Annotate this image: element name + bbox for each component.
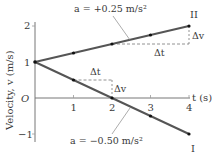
x-tick-label-2: 2 [109, 102, 115, 113]
line-II-accel-label: a = +0.25 m/s² [74, 3, 147, 14]
line-I-point-t4 [187, 132, 190, 135]
line-I-point-t3 [149, 114, 152, 117]
line-II-dt-label: Δt [154, 47, 165, 58]
line-II-point-t1 [72, 51, 75, 54]
x-tick-label-3: 3 [148, 102, 154, 113]
x-tick-label-4: 4 [186, 102, 192, 113]
line-I-name: I [191, 143, 195, 154]
line-II-point-t4 [187, 24, 190, 27]
line-II-point-t0 [33, 60, 37, 64]
x-tick-label-1: 1 [71, 102, 77, 113]
line-II-point-t2 [110, 42, 113, 45]
line-I-accel-label: a = −0.50 m/s² [70, 135, 143, 146]
line-I-dv-label: Δv [114, 83, 127, 94]
y-tick-label-origin: O [21, 93, 29, 104]
y-tick-label-2: 2 [24, 20, 30, 31]
y-axis-label: Velocity, v (m/s) [4, 50, 15, 131]
y-tick-label-neg1: −1 [18, 129, 33, 140]
line-I-point-t2 [110, 96, 113, 99]
line-II-leader [113, 16, 130, 40]
line-II-point-t3 [149, 33, 152, 36]
velocity-time-chart: 2 1 O −1 1 2 3 4 t (s) Velocity, v (m/s)… [0, 0, 217, 159]
line-II-name: II [190, 9, 198, 20]
line-II-dv-label: Δv [192, 30, 205, 41]
line-I-point-t1 [72, 78, 75, 81]
x-axis-label: t (s) [192, 92, 212, 103]
y-tick-label-1: 1 [24, 57, 30, 68]
line-I-dt-label: Δt [90, 66, 101, 77]
